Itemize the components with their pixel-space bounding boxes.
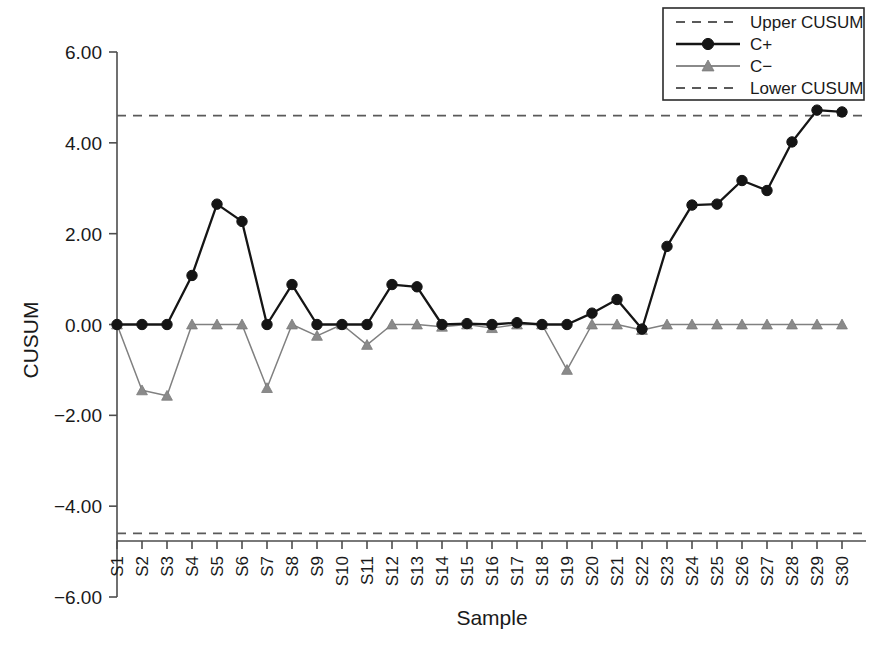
data-point-c-plus [337, 319, 347, 329]
y-tick-label: −6.00 [54, 587, 102, 608]
legend-entry-label: C− [750, 57, 772, 76]
x-tick-label: S14 [433, 556, 452, 586]
x-tick-label: S17 [508, 556, 527, 586]
x-tick-label: S22 [633, 556, 652, 586]
x-tick-label: S7 [258, 556, 277, 577]
data-point-c-plus [537, 319, 547, 329]
x-tick-label: S6 [233, 556, 252, 577]
legend-entry-label: Lower CUSUM [750, 79, 863, 98]
x-tick-label: S28 [783, 556, 802, 586]
data-point-c-plus [837, 107, 847, 117]
y-tick-label: −2.00 [54, 405, 102, 426]
legend-entry-label: C+ [750, 35, 772, 54]
y-tick-label: 6.00 [65, 42, 102, 63]
data-point-c-plus [187, 270, 197, 280]
data-point-c-plus [812, 105, 822, 115]
data-point-c-plus [387, 279, 397, 289]
x-tick-label: S2 [133, 556, 152, 577]
x-tick-label: S24 [683, 556, 702, 586]
data-point-c-plus [737, 175, 747, 185]
x-tick-label: S1 [108, 556, 127, 577]
data-point-c-plus [512, 317, 522, 327]
data-point-c-plus [237, 216, 247, 226]
data-point-c-plus [487, 319, 497, 329]
x-tick-label: S9 [308, 556, 327, 577]
data-point-c-plus [162, 319, 172, 329]
x-tick-label: S19 [558, 556, 577, 586]
x-tick-label: S27 [758, 556, 777, 586]
y-tick-label: 2.00 [65, 224, 102, 245]
y-tick-label: 0.00 [65, 315, 102, 336]
legend-swatch-circle-icon [702, 38, 713, 49]
x-tick-label: S4 [183, 556, 202, 577]
data-point-c-plus [362, 319, 372, 329]
chart-legend: Upper CUSUMC+C−Lower CUSUM [663, 8, 864, 100]
cusum-chart: 6.004.002.000.00−2.00−4.00−6.00 S1S2S3S4… [0, 0, 879, 651]
data-point-c-plus [662, 241, 672, 251]
x-tick-label: S13 [408, 556, 427, 586]
x-tick-label: S25 [708, 556, 727, 586]
data-point-c-plus [112, 319, 122, 329]
data-point-c-plus [762, 185, 772, 195]
legend-entry-label: Upper CUSUM [750, 13, 863, 32]
x-tick-label: S12 [383, 556, 402, 586]
y-tick-label: 4.00 [65, 133, 102, 154]
y-axis-title: CUSUM [19, 302, 42, 379]
x-tick-label: S16 [483, 556, 502, 586]
x-tick-label: S15 [458, 556, 477, 586]
data-point-c-plus [787, 137, 797, 147]
x-tick-label: S5 [208, 556, 227, 577]
data-point-c-plus [687, 200, 697, 210]
data-point-c-plus [437, 319, 447, 329]
data-point-c-plus [637, 324, 647, 334]
data-point-c-plus [587, 308, 597, 318]
data-point-c-plus [287, 279, 297, 289]
data-point-c-plus [212, 199, 222, 209]
x-tick-label: S11 [358, 556, 377, 585]
data-point-c-plus [412, 282, 422, 292]
x-axis-title: Sample [456, 606, 527, 629]
x-tick-label: S30 [833, 556, 852, 586]
x-tick-label: S29 [808, 556, 827, 586]
x-tick-label: S3 [158, 556, 177, 577]
data-point-c-plus [462, 318, 472, 328]
x-tick-label: S23 [658, 556, 677, 586]
data-point-c-plus [562, 319, 572, 329]
data-point-c-plus [712, 199, 722, 209]
y-tick-label: −4.00 [54, 496, 102, 517]
x-tick-label: S18 [533, 556, 552, 586]
x-tick-label: S21 [608, 556, 627, 586]
chart-canvas: 6.004.002.000.00−2.00−4.00−6.00 S1S2S3S4… [0, 0, 879, 651]
data-point-c-plus [312, 319, 322, 329]
data-point-c-plus [612, 294, 622, 304]
data-point-c-plus [262, 319, 272, 329]
x-tick-label: S8 [283, 556, 302, 577]
x-tick-label: S26 [733, 556, 752, 586]
x-tick-label: S10 [333, 556, 352, 586]
x-tick-label: S20 [583, 556, 602, 586]
data-point-c-plus [137, 319, 147, 329]
